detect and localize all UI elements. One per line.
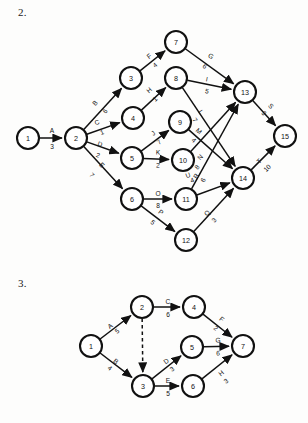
node-15: 15 [274, 125, 296, 147]
edge-name-C: C [94, 118, 101, 126]
node-label: 6 [130, 195, 134, 204]
node-label: 12 [182, 236, 190, 245]
network-diagram-2: 123456789101112131415 A3B6C1D2E7F4G6H1I5… [0, 0, 308, 268]
edge-duration-K: 2 [156, 161, 160, 168]
edge-name-B: B [112, 357, 120, 366]
node-label: 5 [130, 154, 134, 163]
edge-duration-B: 6 [101, 107, 109, 115]
node-label: 4 [192, 303, 196, 312]
edge-name-S: S [267, 102, 276, 110]
node-6: 6 [182, 375, 204, 397]
edge-duration-C: 1 [99, 128, 105, 136]
edge-duration-N: 8 [193, 163, 201, 171]
edge-duration-I: 5 [205, 87, 210, 95]
edge-G [203, 346, 229, 347]
node-14: 14 [232, 167, 254, 189]
node-label: 3 [141, 382, 145, 391]
node-1: 1 [17, 127, 39, 149]
node-3: 3 [120, 67, 142, 89]
edge-duration-E: 7 [88, 171, 96, 179]
edge-name-N: N [196, 153, 205, 161]
edge-name-H: H [217, 369, 225, 378]
node-10: 10 [172, 149, 194, 171]
edge-duration-P: 5 [149, 218, 156, 226]
edge-H [202, 355, 232, 379]
node-label: 7 [174, 38, 178, 47]
node-11: 11 [175, 188, 197, 210]
node-label: 14 [239, 174, 247, 183]
edge-duration-T: 10 [262, 163, 272, 173]
node-label: 1 [89, 342, 93, 351]
edge-name-O: O [155, 190, 160, 197]
edge-layer [100, 307, 232, 386]
node-label: 9 [178, 118, 182, 127]
edge-duration-D: 2 [95, 151, 101, 159]
node-label: 2 [140, 303, 144, 312]
edge-name-M: M [195, 127, 204, 136]
edge-U [197, 183, 230, 195]
edge-duration-J: 7 [155, 138, 162, 146]
edge-duration-F: 2 [212, 324, 219, 332]
node-8: 8 [165, 67, 187, 89]
node-5: 5 [181, 336, 203, 358]
edge-duration-O: 8 [156, 202, 160, 209]
edge-name-F: F [145, 52, 153, 60]
edge-name-D: D [162, 357, 170, 366]
node-label: 15 [281, 132, 289, 141]
edge-name-C: C [166, 298, 171, 305]
edge-Q [194, 188, 234, 231]
node-7: 7 [232, 335, 254, 357]
edge-name-K: K [156, 148, 161, 155]
node-13: 13 [234, 81, 256, 103]
node-3: 3 [132, 375, 154, 397]
edge-name-J: J [150, 129, 157, 137]
node-7: 7 [165, 31, 187, 53]
node-label: 11 [182, 195, 189, 204]
edge-duration-C: 6 [166, 311, 170, 318]
edge-P [141, 206, 175, 232]
edge-name-P: P [157, 208, 165, 217]
node-label: 8 [174, 74, 178, 83]
node-9: 9 [169, 111, 191, 133]
node-label: 6 [191, 382, 195, 391]
node-5: 5 [121, 147, 143, 169]
edge-name-G: G [215, 336, 220, 343]
edge-duration-E: 5 [166, 390, 170, 397]
edge-duration-H: 3 [222, 377, 229, 385]
edge-name-Q: Q [203, 209, 212, 218]
edge-F [140, 51, 165, 71]
edge-duration-L: 7 [191, 117, 199, 124]
edge-name-B: B [91, 99, 100, 107]
edge-duration-A: 5 [113, 327, 120, 335]
node-6: 6 [121, 188, 143, 210]
edge-duration-G: 6 [201, 62, 208, 70]
node-label: 3 [129, 74, 133, 83]
node-label: 7 [241, 342, 245, 351]
network-diagram-3: 1234567 A5B4C6D3E5F2G6H3 [0, 268, 308, 423]
edge-duration-H: 1 [151, 95, 159, 103]
edge-duration-M: 4 [190, 136, 198, 144]
node-label: 5 [190, 343, 194, 352]
edge-name-G: G [207, 52, 215, 61]
edge-name-A: A [50, 127, 55, 134]
edge-D [87, 142, 119, 153]
node-4: 4 [183, 296, 205, 318]
edge-name-E: E [166, 377, 171, 384]
edge-duration-A: 3 [50, 143, 54, 150]
edge-K [143, 158, 169, 159]
node-label: 4 [131, 114, 135, 123]
node-label: 10 [179, 156, 187, 165]
edge-duration-F: 4 [151, 61, 158, 69]
node-label: 13 [241, 88, 249, 97]
edge-duration-B: 4 [106, 364, 113, 372]
edge-duration-Q: 3 [210, 216, 218, 224]
node-2: 2 [65, 127, 87, 149]
node-12: 12 [175, 229, 197, 251]
edge-name-F: F [218, 315, 226, 323]
edge-duration-G: 6 [216, 349, 220, 356]
dummy-edge [142, 318, 143, 372]
edge-duration-D: 3 [168, 365, 175, 373]
node-label: 2 [74, 134, 78, 143]
node-2: 2 [131, 296, 153, 318]
node-1: 1 [80, 335, 102, 357]
